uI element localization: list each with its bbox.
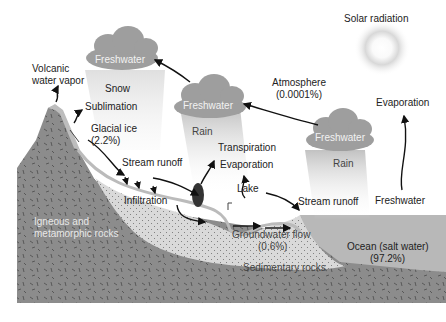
label-snow: Snow — [105, 83, 130, 94]
label-evaporation-right: Evaporation — [376, 97, 429, 108]
label-transpiration: Transpiration — [218, 142, 276, 153]
label-rain-right: Rain — [333, 158, 354, 169]
label-groundwater-flow: Groundwater flow — [232, 229, 310, 240]
label-rain-center: Rain — [192, 126, 213, 137]
cloud-icon — [174, 74, 246, 118]
label-igneous: Igneous and — [34, 216, 89, 227]
label-lake: Lake — [237, 183, 259, 194]
label-sublimation: Sublimation — [85, 101, 137, 112]
label-glacial-ice-pct: (2.2%) — [91, 135, 120, 146]
cloud-label: Freshwater — [95, 54, 145, 65]
label-groundwater-pct: (0.6%) — [258, 241, 287, 252]
cloud-icon — [306, 108, 374, 151]
label-stream-runoff-right: Stream runoff — [298, 196, 358, 207]
label-evaporation-center: Evaporation — [220, 159, 273, 170]
label-ocean: Ocean (salt water) — [347, 241, 429, 252]
label-volcanic: Volcanic — [32, 63, 69, 74]
lake-pointer — [228, 203, 232, 210]
label-atmosphere-pct: (0.0001%) — [261, 89, 337, 100]
label-metamorphic: metamorphic rocks — [34, 228, 118, 239]
cloud-label: Freshwater — [183, 100, 233, 111]
sun-icon — [354, 20, 410, 76]
label-solar-radiation: Solar radiation — [344, 13, 408, 24]
label-glacial-ice: Glacial ice — [91, 123, 137, 134]
label-infiltration: Infiltration — [124, 195, 167, 206]
label-ocean-pct: (97.2%) — [370, 253, 405, 264]
label-freshwater-ocean: Freshwater — [375, 195, 425, 206]
label-atmosphere: Atmosphere — [261, 77, 337, 88]
label-stream-runoff-left: Stream runoff — [122, 157, 182, 168]
label-sedimentary-rocks: Sedimentary rocks — [243, 262, 326, 273]
cloud-label: Freshwater — [315, 132, 365, 143]
label-water-vapor: water vapor — [32, 75, 84, 86]
water-cycle-diagram: Solar radiation Atmosphere (0.0001%) Vol… — [0, 0, 446, 322]
